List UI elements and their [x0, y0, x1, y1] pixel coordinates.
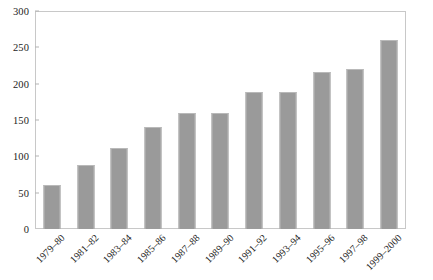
x-axis-tick-label: 1999–2000 — [364, 232, 404, 272]
bar-chart-figure: 050100150200250300 1979–801981–821983–84… — [0, 0, 433, 280]
x-axis-tick-label: 1983–84 — [101, 232, 134, 265]
bar-slot — [305, 11, 339, 229]
y-axis-tick-label: 150 — [13, 115, 29, 126]
bars-layer — [35, 11, 406, 229]
bar — [145, 127, 162, 229]
bar — [279, 92, 296, 229]
x-axis-tick-label: 1991–92 — [236, 232, 269, 265]
x-axis-tick-label: 1989–90 — [202, 232, 235, 265]
x-axis-tick-label: 1985–86 — [135, 232, 168, 265]
bar — [43, 185, 60, 229]
x-axis-tick-label: 1997–98 — [337, 232, 370, 265]
bar-slot — [136, 11, 170, 229]
bar — [178, 113, 195, 229]
y-axis-tick-label: 50 — [18, 187, 29, 198]
x-axis-tick-label: 1987–88 — [169, 232, 202, 265]
y-axis-tick-label: 100 — [13, 151, 29, 162]
bar-slot — [69, 11, 103, 229]
y-axis: 050100150200250300 — [0, 11, 35, 229]
y-axis-tick-label: 250 — [13, 42, 29, 53]
x-axis-tick-label: 1993–94 — [270, 232, 303, 265]
bar — [212, 113, 229, 229]
bar — [381, 40, 398, 229]
bar-slot — [102, 11, 136, 229]
bar-slot — [204, 11, 238, 229]
bar-slot — [339, 11, 373, 229]
bar — [77, 165, 94, 229]
x-axis-tick-label: 1981–82 — [67, 232, 100, 265]
bar-slot — [170, 11, 204, 229]
x-axis-tick-label: 1979–80 — [34, 232, 67, 265]
bar — [246, 92, 263, 229]
x-axis-tick-label: 1995–96 — [303, 232, 336, 265]
y-axis-tick-label: 0 — [24, 224, 29, 235]
y-axis-tick-label: 200 — [13, 78, 29, 89]
bar-slot — [372, 11, 406, 229]
bar-slot — [35, 11, 69, 229]
figure-caption — [6, 273, 426, 280]
bar — [347, 69, 364, 229]
y-axis-tick-label: 300 — [13, 6, 29, 17]
bar — [313, 72, 330, 229]
bar-slot — [237, 11, 271, 229]
bar-slot — [271, 11, 305, 229]
bar — [111, 148, 128, 229]
x-axis: 1979–801981–821983–841985–861987–881989–… — [35, 230, 406, 278]
